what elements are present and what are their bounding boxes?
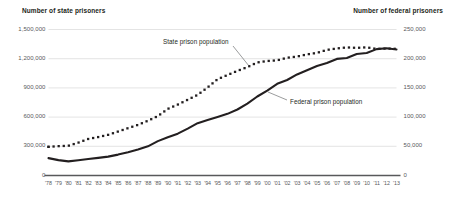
annotation-state-prison-population: State prison population: [163, 38, 229, 45]
annotation-federal-prison-population: Federal prison population: [290, 98, 362, 105]
right-tick-label: 250,000: [404, 26, 426, 32]
left-tick-label: 1,200,000: [18, 55, 45, 61]
x-tick-label: '13: [389, 180, 405, 186]
chart-container: Number of state prisoners Number of fede…: [0, 0, 451, 205]
left-tick-label: 600,000: [23, 113, 45, 119]
right-tick-label: 50,000: [404, 142, 423, 148]
right-tick-label: 200,000: [404, 55, 426, 61]
right-tick-label: 150,000: [404, 84, 426, 90]
left-tick-label: 900,000: [23, 84, 45, 90]
left-tick-label: 300,000: [23, 142, 45, 148]
right-tick-label: 0: [404, 172, 407, 178]
chart-plot-area: [0, 0, 451, 205]
right-tick-label: 100,000: [404, 113, 426, 119]
left-tick-label: 1,500,000: [18, 26, 45, 32]
left-tick-label: 0: [42, 172, 45, 178]
annotation-leader-lines: [233, 46, 287, 100]
